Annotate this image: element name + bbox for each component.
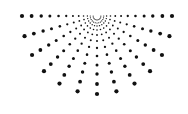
- dot: [72, 57, 75, 60]
- dot: [91, 24, 92, 25]
- dot: [94, 18, 95, 19]
- dot: [118, 37, 120, 39]
- dot: [78, 20, 80, 22]
- dot: [143, 15, 146, 18]
- dot: [144, 43, 147, 46]
- dot: [81, 70, 84, 73]
- dot: [93, 17, 94, 18]
- dot: [167, 34, 171, 38]
- dot: [32, 32, 36, 36]
- dot: [117, 28, 119, 30]
- dot: [66, 23, 68, 25]
- dot: [112, 80, 116, 84]
- dot: [114, 89, 118, 93]
- dot: [91, 19, 92, 20]
- dot: [101, 33, 103, 35]
- dot: [109, 29, 111, 31]
- dot: [55, 39, 58, 42]
- dot: [30, 14, 34, 18]
- dot: [83, 15, 85, 17]
- dot: [42, 69, 46, 73]
- dot: [75, 28, 77, 30]
- dot: [88, 46, 90, 48]
- dot: [57, 81, 61, 85]
- dot: [98, 19, 99, 20]
- dot: [99, 18, 100, 19]
- dot: [90, 17, 91, 18]
- dot: [106, 15, 107, 16]
- dot: [132, 81, 136, 85]
- dot: [96, 34, 98, 36]
- dot: [96, 64, 99, 67]
- dot: [73, 21, 75, 23]
- dot: [94, 25, 95, 26]
- dot: [115, 49, 118, 52]
- dot: [69, 31, 71, 33]
- dot: [96, 40, 98, 42]
- dot: [119, 57, 122, 60]
- dot: [65, 15, 67, 17]
- dot: [78, 15, 80, 17]
- dot: [119, 21, 121, 23]
- dot: [170, 14, 174, 18]
- dot: [86, 53, 89, 56]
- dot: [20, 14, 24, 18]
- dot: [93, 29, 95, 31]
- dot: [151, 14, 154, 17]
- dot: [141, 27, 144, 30]
- dot: [83, 62, 86, 65]
- dot: [101, 20, 102, 21]
- dot: [100, 16, 101, 17]
- dot: [96, 55, 99, 58]
- dot: [69, 43, 72, 46]
- dot: [97, 20, 98, 21]
- dot: [106, 18, 107, 19]
- dot: [80, 43, 82, 45]
- dot: [87, 18, 88, 19]
- dot: [101, 24, 102, 25]
- dot: [105, 32, 107, 34]
- dot: [98, 22, 99, 23]
- dot: [93, 16, 94, 17]
- dot: [114, 20, 116, 22]
- dot: [88, 20, 89, 21]
- dot-rays: [20, 14, 174, 96]
- dot: [91, 33, 93, 35]
- dot: [129, 49, 132, 52]
- dot: [135, 55, 138, 58]
- dot: [57, 15, 60, 18]
- dot: [100, 18, 101, 19]
- dot: [67, 65, 70, 68]
- dot: [76, 49, 79, 52]
- dot: [106, 53, 109, 56]
- dot: [78, 80, 82, 84]
- dot: [134, 15, 137, 18]
- dot: [100, 29, 102, 31]
- dot: [89, 27, 91, 29]
- dot: [90, 22, 91, 23]
- dot: [158, 32, 162, 36]
- dot: [114, 15, 116, 17]
- dot: [120, 15, 122, 17]
- dot: [108, 37, 110, 39]
- dot: [41, 29, 44, 32]
- dot: [160, 14, 164, 18]
- dot: [47, 43, 50, 46]
- dot: [103, 27, 105, 29]
- dot: [74, 37, 76, 39]
- dot: [40, 14, 43, 17]
- dot: [30, 53, 34, 57]
- dot: [95, 22, 96, 23]
- dot: [87, 32, 89, 34]
- dot: [95, 72, 98, 75]
- dot: [87, 25, 89, 27]
- dot: [96, 22, 97, 23]
- dot: [110, 15, 112, 17]
- dot: [93, 21, 94, 22]
- dot: [108, 22, 110, 24]
- dot: [105, 20, 106, 21]
- dot: [126, 23, 128, 25]
- dot: [109, 19, 111, 21]
- dot: [85, 22, 87, 24]
- dot: [50, 27, 53, 30]
